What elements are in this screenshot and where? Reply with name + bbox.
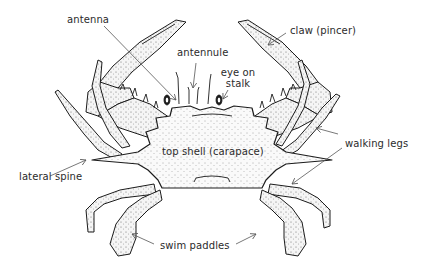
label-walking-legs: walking legs xyxy=(345,138,408,149)
label-top-shell: top shell (carapace) xyxy=(162,146,264,157)
pointer-antennule xyxy=(193,63,196,88)
label-lateral-spine: lateral spine xyxy=(19,171,82,182)
label-claw: claw (pincer) xyxy=(290,25,356,36)
pointer-swim-paddle-right xyxy=(236,234,256,244)
label-swim-paddles: swim paddles xyxy=(160,240,230,251)
antennae xyxy=(176,72,211,104)
pointer-walking-leg-upper xyxy=(316,128,338,134)
pointer-walking-leg-lower xyxy=(292,148,342,184)
crab-anatomy-diagram: antenna antennule eye on stalk claw (pin… xyxy=(0,0,424,270)
pointer-eye xyxy=(223,90,228,99)
label-antennule: antennule xyxy=(177,47,228,58)
crab-illustration xyxy=(0,0,424,270)
label-eye-on-stalk-line2: stalk xyxy=(219,78,257,89)
label-antenna: antenna xyxy=(67,14,109,25)
label-eye-on-stalk-line1: eye on xyxy=(219,67,257,78)
